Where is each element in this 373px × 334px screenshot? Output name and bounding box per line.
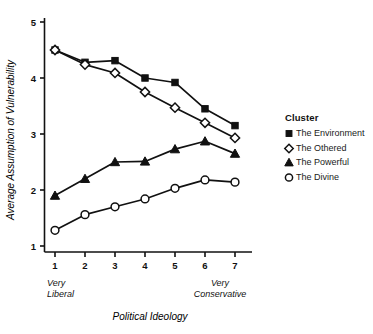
legend-item-label: The Powerful: [296, 157, 349, 168]
data-point-open-diamond: [230, 133, 239, 142]
x-axis-end-label: Liberal: [47, 289, 75, 299]
data-point-open-circle: [111, 203, 119, 211]
data-point-open-diamond: [285, 144, 293, 152]
data-point-open-diamond: [110, 68, 119, 77]
legend-item-label: The Othered: [296, 143, 347, 154]
data-point-open-diamond: [140, 87, 149, 96]
data-point-filled-square: [232, 122, 238, 128]
legend-item[interactable]: The Powerful: [283, 157, 373, 168]
chart-figure: Average Assumption of Vulnerability 1234…: [0, 0, 373, 334]
legend-marker-open-diamond-icon: [283, 143, 296, 154]
x-axis-ticks: 1234567: [52, 252, 237, 271]
legend-items: The EnvironmentThe OtheredThe PowerfulTh…: [283, 128, 373, 183]
data-point-filled-square: [112, 57, 118, 63]
series-the-powerful: [50, 137, 239, 200]
data-point-open-circle: [201, 176, 209, 184]
legend-item[interactable]: The Othered: [283, 143, 373, 154]
legend-item[interactable]: The Environment: [283, 128, 373, 139]
data-point-filled-square: [172, 79, 178, 85]
legend-item-label: The Environment: [296, 128, 365, 139]
data-point-open-diamond: [200, 118, 209, 127]
data-point-open-circle: [81, 211, 89, 219]
legend-marker-open-circle-icon: [283, 172, 296, 183]
data-series-layer: [50, 45, 239, 234]
x-tick-label: 2: [82, 260, 87, 271]
y-axis-ticks: 12345: [31, 17, 45, 252]
data-point-open-circle: [231, 178, 239, 186]
data-point-filled-square: [286, 131, 292, 137]
data-point-filled-triangle: [200, 137, 209, 145]
x-axis-title: Political Ideology: [112, 311, 188, 322]
data-point-open-diamond: [170, 103, 179, 112]
data-point-filled-triangle: [285, 158, 293, 166]
series-the-divine: [51, 176, 239, 234]
legend-item[interactable]: The Divine: [283, 172, 373, 183]
data-point-open-circle: [171, 184, 179, 192]
series-line: [55, 180, 235, 230]
x-tick-label: 3: [112, 260, 117, 271]
data-point-open-circle: [285, 173, 292, 180]
y-tick-label: 1: [31, 241, 37, 252]
x-tick-label: 7: [232, 260, 237, 271]
series-line: [55, 141, 235, 195]
legend-title: Cluster: [285, 112, 373, 123]
data-point-filled-triangle: [80, 174, 89, 182]
x-axis-end-label: Very: [47, 278, 66, 288]
x-tick-label: 5: [172, 260, 178, 271]
x-tick-label: 1: [52, 260, 58, 271]
x-tick-label: 4: [142, 260, 148, 271]
legend-item-label: The Divine: [296, 172, 339, 183]
data-point-filled-square: [202, 106, 208, 112]
y-tick-label: 3: [31, 129, 36, 140]
data-point-filled-triangle: [50, 191, 59, 199]
x-axis-end-label: Very: [211, 278, 230, 288]
chart-legend: Cluster The EnvironmentThe OtheredThe Po…: [283, 112, 373, 186]
y-tick-label: 2: [31, 185, 36, 196]
legend-marker-filled-square-icon: [283, 128, 296, 139]
x-axis-end-label: Conservative: [194, 289, 247, 299]
data-point-open-circle: [51, 226, 59, 234]
y-axis-title: Average Assumption of Vulnerability: [5, 59, 16, 221]
x-tick-label: 6: [202, 260, 207, 271]
y-tick-label: 4: [31, 73, 37, 84]
data-point-filled-square: [142, 75, 148, 81]
data-point-open-circle: [141, 195, 149, 203]
y-tick-label: 5: [31, 17, 37, 28]
legend-marker-filled-triangle-icon: [283, 157, 296, 168]
x-axis-end-labels: VeryLiberalVeryConservative: [47, 278, 246, 299]
